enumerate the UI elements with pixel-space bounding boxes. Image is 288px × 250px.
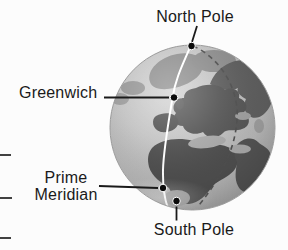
north-pole-leader-line (192, 26, 197, 42)
north-pole-marker-dot (188, 42, 196, 50)
prime-meridian-label: Prime Meridian (30, 169, 102, 203)
greenwich-label: Greenwich (19, 84, 97, 101)
prime-meridian-marker-dot (159, 184, 167, 192)
greenwich-marker-dot (170, 94, 178, 102)
south-pole-label: South Pole (151, 221, 237, 238)
left-edge-ticks (0, 155, 12, 238)
south-pole-marker-dot (173, 197, 181, 205)
globe-illustration (0, 0, 288, 250)
globe-diagram: North Pole Greenwich Prime Meridian Sout… (0, 0, 288, 250)
globe-bottom-highlight (105, 178, 215, 218)
north-pole-label: North Pole (152, 8, 238, 25)
